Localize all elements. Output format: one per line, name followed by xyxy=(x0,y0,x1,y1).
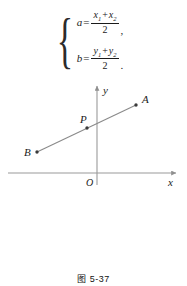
equation-b: b = y1+y2 2 . xyxy=(77,45,124,72)
point-a-marker xyxy=(134,103,137,106)
coordinate-diagram: A P B y x O xyxy=(0,82,187,202)
equation-b-num-y1-sub: 1 xyxy=(98,51,101,58)
equation-b-lhs: b xyxy=(77,52,83,64)
equation-a-lhs: a xyxy=(77,16,83,28)
equation-b-num-y2-sub: 2 xyxy=(113,51,116,58)
point-p-marker xyxy=(85,126,88,129)
equation-a-equals: = xyxy=(83,16,89,28)
point-b-marker xyxy=(35,150,38,153)
equation-b-punctuation: . xyxy=(121,59,124,71)
equation-a-denominator: 2 xyxy=(103,24,108,36)
y-axis-label: y xyxy=(102,84,108,96)
figure-caption: 图 5-37 xyxy=(0,272,187,285)
point-a-label: A xyxy=(141,93,149,105)
equation-a-punctuation: , xyxy=(121,24,124,36)
equation-a-num-x2-sub: 2 xyxy=(113,15,116,22)
x-axis-label: x xyxy=(167,176,173,188)
equation-list: a = x1+x2 2 , b = y1+y2 2 . xyxy=(77,9,124,72)
equation-b-equals: = xyxy=(83,52,89,64)
equation-a-numerator: x1+x2 xyxy=(91,9,118,22)
equation-a-plus: + xyxy=(102,9,108,20)
origin-label: O xyxy=(86,177,93,188)
equation-b-plus: + xyxy=(102,45,108,56)
equation-b-denominator: 2 xyxy=(103,60,108,72)
equation-b-numerator: y1+y2 xyxy=(91,45,118,58)
equation-a-num-x1-sub: 1 xyxy=(98,15,101,22)
point-p-label: P xyxy=(79,113,87,125)
midpoint-formula-block: { a = x1+x2 2 , b = y1+y2 2 . xyxy=(50,2,150,78)
equation-b-fraction: y1+y2 2 xyxy=(91,45,118,72)
point-b-label: B xyxy=(24,146,31,158)
curly-brace-icon: { xyxy=(57,9,73,71)
equation-a-fraction: x1+x2 2 xyxy=(91,9,118,36)
equation-a: a = x1+x2 2 , xyxy=(77,9,124,36)
